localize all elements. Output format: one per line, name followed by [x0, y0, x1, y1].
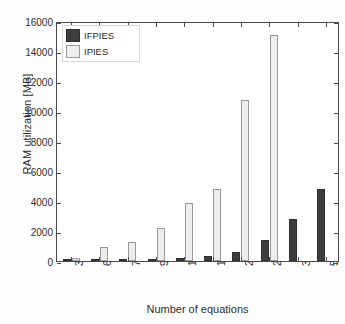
legend-entry-ifpies: IFPIES	[66, 29, 114, 42]
y-tick-mark	[334, 23, 338, 24]
bar-ifpies	[148, 259, 156, 261]
bar-ifpies	[289, 219, 297, 261]
y-tick-mark	[334, 83, 338, 84]
y-tick-mark	[334, 203, 338, 204]
x-tick-mark	[184, 23, 185, 27]
x-tick-mark	[99, 257, 100, 261]
bar-ipies	[157, 228, 165, 261]
x-tick-mark	[298, 23, 299, 27]
bar-ifpies	[119, 259, 127, 261]
x-tick-mark	[326, 23, 327, 27]
bar-ipies	[72, 258, 80, 261]
legend-label-ifpies: IFPIES	[84, 30, 114, 41]
y-tick-label: 16000	[11, 17, 53, 28]
x-tick-mark	[156, 257, 157, 261]
bar-ifpies	[91, 259, 99, 261]
x-tick-mark	[241, 257, 242, 261]
y-tick-mark	[57, 203, 61, 204]
y-tick-mark	[334, 263, 338, 264]
y-axis-title: RAM utilization [MB]	[21, 34, 33, 214]
y-tick-mark	[57, 83, 61, 84]
x-axis-title: Number of equations	[55, 303, 340, 315]
x-tick-mark	[326, 257, 327, 261]
bar-ipies	[241, 100, 249, 261]
y-tick-mark	[57, 173, 61, 174]
y-tick-mark	[334, 113, 338, 114]
chart-legend: IFPIES IPIES	[62, 25, 140, 62]
y-tick-mark	[57, 23, 61, 24]
x-tick-mark	[156, 23, 157, 27]
y-tick-mark	[57, 263, 61, 264]
x-tick-mark	[213, 257, 214, 261]
y-tick-mark	[334, 173, 338, 174]
x-tick-mark	[241, 23, 242, 27]
x-tick-mark	[298, 257, 299, 261]
y-tick-label: 4000	[11, 197, 53, 208]
bar-ifpies	[63, 259, 71, 261]
y-tick-mark	[334, 143, 338, 144]
y-tick-mark	[334, 53, 338, 54]
bar-ifpies	[232, 252, 240, 261]
y-tick-mark	[57, 113, 61, 114]
y-tick-mark	[334, 233, 338, 234]
x-tick-mark	[71, 257, 72, 261]
x-tick-mark	[213, 23, 214, 27]
y-tick-label: 12000	[11, 77, 53, 88]
bar-ifpies	[261, 240, 269, 261]
bar-ipies	[185, 203, 193, 261]
y-tick-label: 0	[11, 257, 53, 268]
x-tick-mark	[128, 257, 129, 261]
legend-swatch-ifpies	[66, 29, 80, 42]
bar-ipies	[213, 189, 221, 261]
x-tick-mark	[184, 257, 185, 261]
legend-entry-ipies: IPIES	[66, 45, 108, 58]
bar-ifpies	[317, 189, 325, 261]
y-tick-label: 2000	[11, 227, 53, 238]
x-tick-mark	[269, 23, 270, 27]
legend-swatch-ipies	[66, 45, 80, 58]
y-tick-mark	[57, 233, 61, 234]
y-tick-label: 6000	[11, 167, 53, 178]
bar-ifpies	[204, 256, 212, 261]
bar-ipies	[270, 35, 278, 262]
y-tick-mark	[57, 53, 61, 54]
y-tick-label: 10000	[11, 107, 53, 118]
y-tick-mark	[57, 143, 61, 144]
x-tick-mark	[269, 257, 270, 261]
y-tick-label: 14000	[11, 47, 53, 58]
legend-label-ipies: IPIES	[84, 46, 108, 57]
y-tick-label: 8000	[11, 137, 53, 148]
bar-ipies	[128, 242, 136, 261]
bar-ifpies	[176, 258, 184, 261]
bar-ipies	[100, 247, 108, 261]
chart-figure: RAM utilization [MB] Number of equations…	[0, 0, 345, 324]
